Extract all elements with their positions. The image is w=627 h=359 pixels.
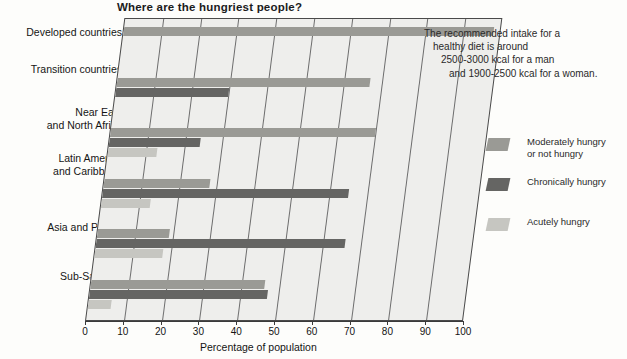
annotation-text: The recommended intake for a healthy die…	[424, 27, 624, 80]
x-axis-title: Percentage of population	[200, 341, 317, 353]
bar	[97, 229, 170, 238]
legend-label: Chronically hungry	[527, 176, 606, 188]
legend-swatch-icon	[486, 178, 511, 191]
x-axis-tick-label: 40	[231, 326, 242, 337]
legend-label-line1: Moderately hungry	[527, 136, 606, 147]
bar	[103, 179, 210, 188]
legend-item-acute: Acutely hungry	[487, 216, 627, 240]
x-axis-tick	[350, 321, 351, 325]
annotation-line-1: The recommended intake for a	[424, 27, 624, 40]
bar	[102, 189, 349, 198]
x-axis-tick	[85, 321, 86, 325]
x-axis-tick-label: 90	[420, 326, 431, 337]
legend-label: Moderately hungry or not hungry	[527, 136, 606, 159]
x-axis-tick-label: 60	[306, 326, 317, 337]
x-axis-tick-label: 50	[268, 326, 279, 337]
bar	[88, 300, 112, 309]
x-axis-tick	[312, 321, 313, 325]
legend-label-line2: or not hungry	[527, 148, 583, 159]
bar	[115, 88, 230, 97]
gridline	[162, 19, 202, 320]
legend-item-chronic: Chronically hungry	[487, 176, 627, 200]
legend-swatch-icon	[486, 218, 511, 231]
bar	[90, 280, 265, 289]
bar	[101, 199, 151, 208]
x-axis-tick	[236, 321, 237, 325]
bar	[89, 290, 268, 299]
annotation-line-2: healthy diet is around	[424, 40, 624, 53]
x-axis-tick	[123, 321, 124, 325]
bar	[107, 148, 157, 157]
gridline	[389, 19, 429, 320]
x-axis-tick	[198, 321, 199, 325]
x-axis-tick	[274, 321, 275, 325]
gridline	[200, 19, 240, 320]
gridline	[275, 19, 315, 320]
x-axis-tick-label: 30	[193, 326, 204, 337]
gridline	[351, 19, 391, 320]
x-axis-tick-label: 70	[344, 326, 355, 337]
bar	[94, 249, 163, 258]
legend-swatch-icon	[486, 138, 511, 151]
legend-label-line1: Chronically hungry	[527, 176, 606, 187]
x-axis-tick-label: 0	[82, 326, 88, 337]
page-title: Where are the hungriest people?	[117, 1, 302, 13]
x-axis-tick-label: 10	[117, 326, 128, 337]
legend-item-moderate: Moderately hungry or not hungry	[487, 136, 627, 160]
x-axis-tick	[425, 321, 426, 325]
annotation-line-4: and 1900-2500 kcal for a woman.	[424, 67, 624, 80]
gridline	[124, 19, 164, 320]
x-axis-tick	[161, 321, 162, 325]
gridline	[237, 19, 277, 320]
bar	[95, 239, 346, 248]
x-axis-tick	[387, 321, 388, 325]
x-axis-tick-label: 100	[455, 326, 472, 337]
x-axis-tick-label: 20	[155, 326, 166, 337]
bar	[109, 138, 201, 147]
bar	[110, 128, 376, 137]
x-axis-tick	[463, 321, 464, 325]
annotation-line-3: 2500-3000 kcal for a man	[424, 53, 624, 66]
legend-label: Acutely hungry	[527, 216, 590, 228]
gridline	[313, 19, 353, 320]
legend-label-line1: Acutely hungry	[527, 216, 590, 227]
legend: Moderately hungry or not hungry Chronica…	[487, 136, 627, 256]
x-axis-tick-label: 80	[382, 326, 393, 337]
plot-area	[85, 18, 463, 321]
bar	[116, 78, 370, 87]
